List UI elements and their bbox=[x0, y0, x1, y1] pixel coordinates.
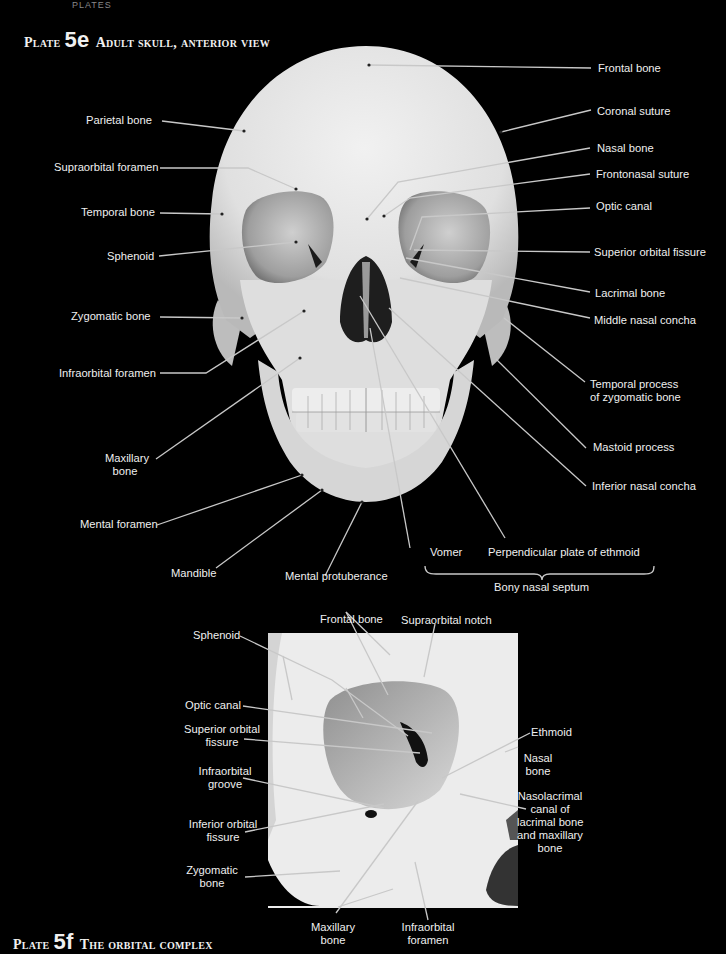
plate-5f-title: Plate5fThe orbital complex bbox=[13, 929, 213, 954]
label-frontonasal-suture: Frontonasal suture bbox=[596, 168, 689, 181]
label-perpendicular-plate-of-ethmoid: Perpendicular plate of ethmoid bbox=[488, 546, 640, 559]
label-line: of zygomatic bone bbox=[590, 391, 681, 404]
label-mental-protuberance: Mental protuberance bbox=[285, 570, 388, 583]
label-nasal-bone: Nasal bone bbox=[597, 142, 654, 155]
label-5f-ethmoid: Ethmoid bbox=[531, 726, 572, 739]
label-5f-infraorbital-foramen: Infraorbital foramen bbox=[398, 921, 458, 947]
label-frontal-bone: Frontal bone bbox=[598, 62, 661, 75]
label-line: bone bbox=[182, 877, 242, 890]
label-mandible: Mandible bbox=[171, 567, 216, 580]
label-lacrimal-bone: Lacrimal bone bbox=[595, 287, 665, 300]
label-line: Maxillary bbox=[105, 452, 145, 465]
label-line: Infraorbital bbox=[185, 765, 265, 778]
label-line: bone bbox=[105, 465, 145, 478]
label-line: canal of bbox=[517, 803, 583, 816]
label-line: bone bbox=[517, 842, 583, 855]
label-coronal-suture: Coronal suture bbox=[597, 105, 670, 118]
label-mental-foramen: Mental foramen bbox=[80, 518, 158, 531]
label-line: Nasolacrimal bbox=[517, 790, 583, 803]
label-parietal-bone: Parietal bone bbox=[86, 114, 152, 127]
plate-5e-title: Plate5eAdult skull, anterior view bbox=[24, 27, 270, 53]
label-bony-nasal-septum: Bony nasal septum bbox=[494, 581, 589, 594]
label-line: Zygomatic bbox=[182, 864, 242, 877]
label-line: Temporal process bbox=[590, 378, 681, 391]
label-line: and maxillary bbox=[517, 829, 583, 842]
label-5f-maxillary-bone: Maxillary bone bbox=[308, 921, 358, 947]
label-middle-nasal-concha: Middle nasal concha bbox=[594, 314, 696, 327]
label-5f-frontal-bone: Frontal bone bbox=[320, 613, 383, 626]
label-line: Inferior orbital bbox=[176, 818, 270, 831]
label-5f-inferior-orbital-fissure: Inferior orbital fissure bbox=[176, 818, 270, 844]
label-5f-infraorbital-groove: Infraorbital groove bbox=[185, 765, 265, 791]
label-optic-canal: Optic canal bbox=[596, 200, 652, 213]
label-infraorbital-foramen: Infraorbital foramen bbox=[59, 367, 156, 380]
plate-5f-heading: The orbital complex bbox=[80, 937, 213, 952]
label-5f-zygomatic-bone: Zygomatic bone bbox=[182, 864, 242, 890]
label-superior-orbital-fissure: Superior orbital fissure bbox=[594, 246, 706, 259]
label-5f-supraorbital-notch: Supraorbital notch bbox=[401, 614, 492, 627]
label-line: groove bbox=[185, 778, 265, 791]
label-vomer: Vomer bbox=[430, 546, 462, 559]
label-line: fissure bbox=[176, 831, 270, 844]
label-line: bone bbox=[308, 934, 358, 947]
label-mastoid-process: Mastoid process bbox=[593, 441, 674, 454]
label-line: lacrimal bone bbox=[517, 816, 583, 829]
plate-5f-prefix: Plate bbox=[13, 937, 50, 952]
label-line: bone bbox=[518, 765, 558, 778]
label-maxillary-bone: Maxillary bone bbox=[105, 452, 145, 478]
orbital-complex-photo bbox=[268, 633, 518, 908]
label-sphenoid: Sphenoid bbox=[107, 250, 154, 263]
label-5f-sphenoid: Sphenoid bbox=[193, 629, 240, 642]
plate-5e-heading: Adult skull, anterior view bbox=[96, 35, 270, 50]
anterior-skull bbox=[210, 46, 519, 502]
label-5f-superior-orbital-fissure: Superior orbital fissure bbox=[176, 723, 268, 749]
label-line: Nasal bbox=[518, 752, 558, 765]
label-line: foramen bbox=[398, 934, 458, 947]
label-line: Maxillary bbox=[308, 921, 358, 934]
label-line: Infraorbital bbox=[398, 921, 458, 934]
label-supraorbital-foramen: Supraorbital foramen bbox=[54, 161, 158, 174]
plate-5f-number: 5f bbox=[54, 929, 74, 954]
label-5f-optic-canal: Optic canal bbox=[185, 699, 241, 712]
plate-5e-number: 5e bbox=[65, 27, 90, 52]
label-line: Superior orbital bbox=[176, 723, 268, 736]
label-temporal-process-of-zygomatic-bone: Temporal process of zygomatic bone bbox=[590, 378, 681, 404]
plate-5e-prefix: Plate bbox=[24, 35, 61, 50]
label-5f-nasolacrimal-canal: Nasolacrimal canal of lacrimal bone and … bbox=[517, 790, 583, 855]
label-zygomatic-bone: Zygomatic bone bbox=[71, 310, 151, 323]
label-line: fissure bbox=[176, 736, 268, 749]
label-inferior-nasal-concha: Inferior nasal concha bbox=[592, 480, 696, 493]
label-temporal-bone: Temporal bone bbox=[81, 206, 155, 219]
label-5f-nasal-bone: Nasal bone bbox=[518, 752, 558, 778]
